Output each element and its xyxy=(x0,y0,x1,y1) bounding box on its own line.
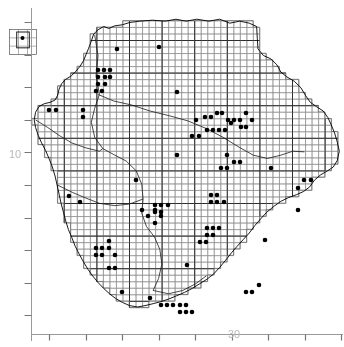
map-plot-canvas xyxy=(0,0,344,347)
distribution-map-figure: 10 30 xyxy=(0,0,344,347)
y-axis-tick-label-10: 10 xyxy=(9,148,21,160)
x-axis-tick-label-30: 30 xyxy=(228,328,240,340)
